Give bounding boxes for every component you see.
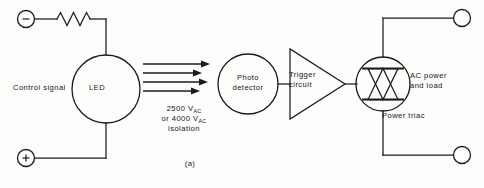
light-arrow-icon-1 [143, 60, 210, 67]
isolation-line-2: or 4000 VAC [141, 114, 227, 124]
isolation-sub-1: AC [193, 108, 201, 114]
isolation-sub-2: AC [199, 118, 207, 124]
isolation-value-2: 4000 [172, 114, 191, 123]
label-control-signal: Control signal [13, 83, 66, 93]
photo-detector-line-2: detector [222, 83, 274, 93]
ac-power-line-2: and load [410, 81, 474, 91]
isolation-prefix-2: or [162, 114, 170, 123]
figure-caption: (a) [172, 159, 208, 169]
light-arrow-icon-2 [143, 69, 202, 76]
label-power-triac: Power triac [382, 111, 425, 121]
schematic-drawing [0, 0, 484, 188]
isolation-unit-2: V [193, 114, 199, 123]
optocoupler-triac-schematic-figure: Control signal LED 2500 VAC or 4000 VAC … [0, 0, 484, 188]
terminal-node-icon-input-positive[interactable] [18, 150, 35, 167]
terminal-node-icon-output-top[interactable] [454, 10, 471, 27]
resistor-icon [57, 13, 90, 26]
trigger-line-1: Trigger [289, 70, 331, 80]
label-ac-power-and-load: AC power and load [410, 71, 474, 91]
isolation-value-1: 2500 [167, 104, 186, 113]
ac-power-line-1: AC power [410, 71, 474, 81]
label-isolation-rating: 2500 VAC or 4000 VAC isolation [141, 104, 227, 134]
terminal-node-icon-input-negative[interactable] [18, 11, 35, 28]
triac-icon[interactable] [356, 57, 410, 111]
light-arrow-icon-4 [143, 87, 200, 94]
terminal-node-icon-output-bottom[interactable] [454, 147, 471, 164]
label-photo-detector: Photo detector [222, 73, 274, 93]
photo-detector-line-1: Photo [222, 73, 274, 83]
isolation-line-1: 2500 VAC [141, 104, 227, 114]
label-led: LED [77, 83, 117, 93]
light-arrow-icon-3 [143, 78, 208, 85]
isolation-line-3: isolation [141, 124, 227, 134]
trigger-line-2: circuit [289, 80, 331, 90]
label-trigger-circuit: Trigger circuit [289, 70, 331, 90]
